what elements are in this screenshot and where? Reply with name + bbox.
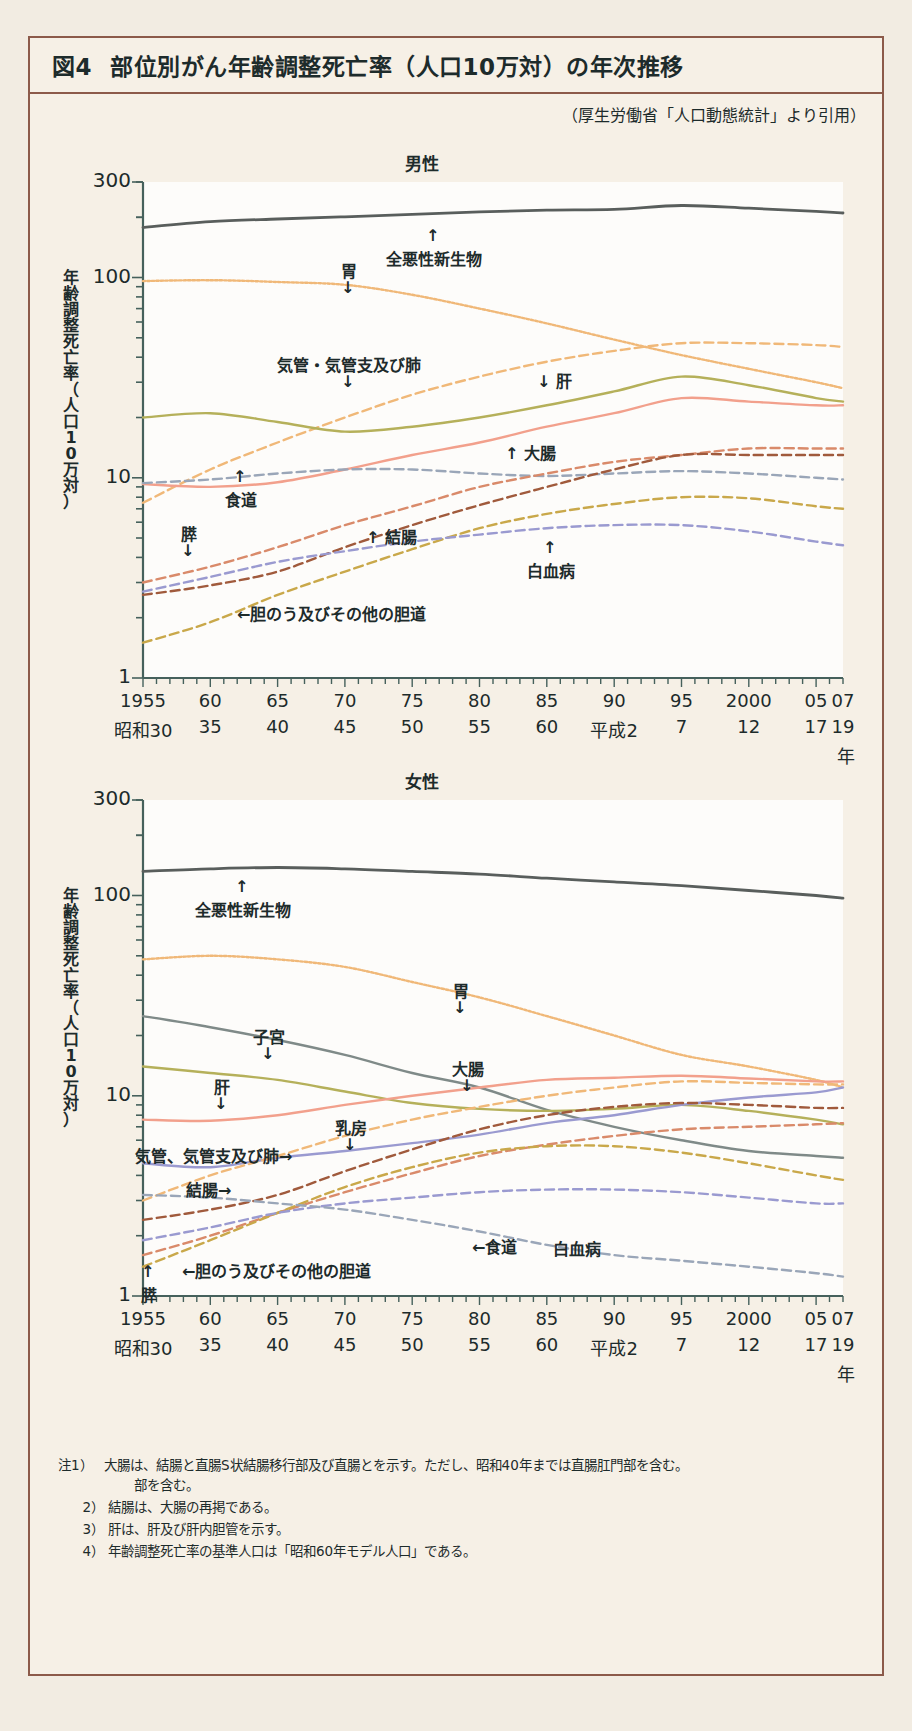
x-axis-unit: 年 — [831, 1360, 861, 1386]
x-tick-label-era: 55 — [446, 1334, 514, 1355]
x-tick-label-era: 50 — [378, 1334, 446, 1355]
x-tick-label-western: 2000 — [719, 1308, 779, 1329]
x-tick-label-western: 95 — [651, 1308, 711, 1329]
note-number: 4） — [58, 1541, 108, 1562]
note-number: 注1） — [58, 1455, 104, 1476]
panel-title-female: 女性 — [405, 768, 439, 793]
series-annotation: 白血病 — [553, 1236, 601, 1260]
arrow-down-icon: ↓ — [181, 541, 194, 560]
arrow-down-icon: ↓ — [453, 998, 466, 1017]
note-text: 結腸は、大腸の再掲である。 — [108, 1497, 858, 1518]
x-tick-label-western: 60 — [180, 690, 240, 711]
arrow-down-icon: ↓ — [460, 1076, 473, 1095]
arrow-down-icon: ↓ — [341, 372, 354, 391]
x-tick-label-era: 7 — [647, 1334, 715, 1355]
x-tick-label-era: 40 — [244, 1334, 312, 1355]
note-text: 大腸は、結腸と直腸S状結腸移行部及び直腸とを示す。ただし、昭和40年までは直腸肛… — [104, 1455, 858, 1476]
x-tick-label-era: 50 — [378, 716, 446, 737]
note-item: 4） 年齢調整死亡率の基準人口は「昭和60年モデル人口」である。 — [58, 1541, 858, 1562]
x-tick-label-western: 65 — [248, 1308, 308, 1329]
note-number — [58, 1475, 104, 1496]
x-tick-label-western: 75 — [382, 1308, 442, 1329]
x-tick-label-western: 1955 — [113, 690, 173, 711]
series-annotation: ↑ 結腸 — [366, 524, 417, 548]
x-tick-label-western: 70 — [315, 690, 375, 711]
series-annotation: ↓ 肝 — [537, 368, 572, 392]
arrow-up-icon: ↑ — [543, 538, 556, 557]
x-tick-label-western: 95 — [651, 690, 711, 711]
arrow-down-icon: ↓ — [261, 1044, 274, 1063]
series-annotation: ←胆のう及びその他の胆道 — [182, 1258, 371, 1282]
y-tick-label: 300 — [65, 168, 131, 192]
x-tick-label-era: 60 — [513, 716, 581, 737]
note-number: 3） — [58, 1519, 108, 1540]
x-tick-label-era: 平成2 — [580, 716, 648, 742]
note-number: 2） — [58, 1497, 108, 1518]
x-tick-label-era: 昭和30 — [109, 1334, 177, 1360]
x-tick-label-western: 07 — [813, 690, 873, 711]
panel-title-male: 男性 — [405, 150, 439, 175]
x-tick-label-era: 45 — [311, 716, 379, 737]
arrow-down-icon: ↓ — [341, 278, 354, 297]
series-annotation: 結腸→ — [186, 1177, 231, 1201]
y-tick-label: 100 — [65, 882, 131, 906]
figure-page: 図4 部位別がん年齢調整死亡率（人口10万対）の年次推移 （厚生労働省「人口動態… — [0, 0, 912, 1731]
x-tick-label-western: 90 — [584, 690, 644, 711]
x-tick-label-era: 35 — [176, 716, 244, 737]
figure-number: 図4 — [30, 48, 92, 82]
x-tick-label-era: 19 — [809, 716, 877, 737]
y-tick-label: 100 — [65, 264, 131, 288]
arrow-up-icon: ↑ — [141, 1262, 154, 1281]
figure-notes: 注1） 大腸は、結腸と直腸S状結腸移行部及び直腸とを示す。ただし、昭和40年まで… — [58, 1455, 858, 1563]
arrow-up-icon: ↑ — [235, 877, 248, 896]
arrow-up-icon: ↑ — [233, 467, 246, 486]
x-tick-label-western: 80 — [450, 1308, 510, 1329]
note-text: 肝は、肝及び肝内胆管を示す。 — [108, 1519, 858, 1540]
series-annotation: ←食道 — [472, 1234, 517, 1258]
x-tick-label-western: 85 — [517, 1308, 577, 1329]
page-title: 部位別がん年齢調整死亡率（人口10万対）の年次推移 — [92, 48, 684, 82]
x-tick-label-western: 65 — [248, 690, 308, 711]
x-tick-label-era: 12 — [715, 716, 783, 737]
arrow-down-icon: ↓ — [343, 1135, 356, 1154]
x-tick-label-western: 75 — [382, 690, 442, 711]
x-tick-label-era: 19 — [809, 1334, 877, 1355]
series-annotation: ←胆のう及びその他の胆道 — [237, 601, 426, 625]
x-tick-label-era: 12 — [715, 1334, 783, 1355]
arrow-up-icon: ↑ — [426, 226, 439, 245]
x-tick-label-era: 60 — [513, 1334, 581, 1355]
series-annotation: 膵 — [141, 1282, 157, 1306]
series-annotation: 全悪性新生物 — [195, 897, 291, 921]
x-tick-label-western: 2000 — [719, 690, 779, 711]
series-annotation: 気管、気管支及び肺→ — [135, 1143, 292, 1167]
x-tick-label-western: 60 — [180, 1308, 240, 1329]
x-tick-label-western: 1955 — [113, 1308, 173, 1329]
x-tick-label-western: 80 — [450, 690, 510, 711]
series-annotation: 食道 — [225, 487, 257, 511]
figure-source: （厚生労働省「人口動態統計」より引用） — [562, 102, 866, 126]
figure-frame — [28, 36, 884, 1676]
note-item: 部を含む。 — [58, 1475, 858, 1496]
note-item: 3） 肝は、肝及び肝内胆管を示す。 — [58, 1519, 858, 1540]
series-annotation: ↑ 大腸 — [505, 440, 556, 464]
x-tick-label-era: 40 — [244, 716, 312, 737]
x-tick-label-western: 85 — [517, 690, 577, 711]
y-tick-label: 300 — [65, 786, 131, 810]
y-tick-label: 1 — [65, 664, 131, 688]
x-tick-label-era: 35 — [176, 1334, 244, 1355]
note-item: 2） 結腸は、大腸の再掲である。 — [58, 1497, 858, 1518]
x-axis-unit: 年 — [831, 742, 861, 768]
note-item: 注1） 大腸は、結腸と直腸S状結腸移行部及び直腸とを示す。ただし、昭和40年まで… — [58, 1455, 858, 1476]
y-tick-label: 10 — [65, 464, 131, 488]
x-tick-label-era: 55 — [446, 716, 514, 737]
x-tick-label-western: 07 — [813, 1308, 873, 1329]
note-text: 年齢調整死亡率の基準人口は「昭和60年モデル人口」である。 — [108, 1541, 858, 1562]
x-tick-label-western: 90 — [584, 1308, 644, 1329]
series-annotation: 全悪性新生物 — [386, 246, 482, 270]
x-tick-label-western: 70 — [315, 1308, 375, 1329]
x-tick-label-era: 7 — [647, 716, 715, 737]
x-tick-label-era: 平成2 — [580, 1334, 648, 1360]
figure-title-bar: 図4 部位別がん年齢調整死亡率（人口10万対）の年次推移 — [30, 38, 882, 94]
series-annotation: 白血病 — [527, 558, 575, 582]
arrow-down-icon: ↓ — [214, 1094, 227, 1113]
